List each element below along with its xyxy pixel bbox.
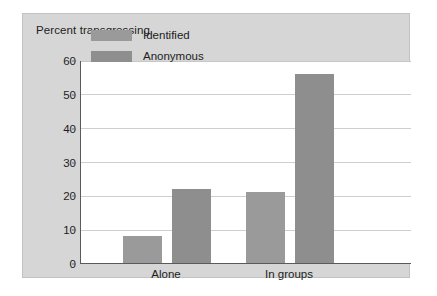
y-axis-tick-label-50: 50 [36,89,76,101]
y-axis-tick-label-10: 10 [36,224,76,236]
legend-label-identified: Identified [143,30,190,42]
y-axis-tick-label-40: 40 [36,123,76,135]
bar-alone-anonymous [172,189,211,263]
y-axis-tick-mark-20 [72,196,76,197]
bar-in-groups-anonymous [295,74,334,263]
x-axis-category-label-alone: Alone [151,268,180,280]
y-axis-tick-mark-60 [72,61,76,62]
y-axis-tick-label-20: 20 [36,190,76,202]
y-axis-tick-label-30: 30 [36,157,76,169]
bar-alone-identified [123,236,162,263]
bar-in-groups-identified [246,192,285,263]
y-axis: 0102030405060 [31,61,76,264]
gridline-30 [81,162,411,163]
gridline-40 [81,128,411,129]
legend-item-identified: Identified [91,26,204,45]
y-axis-tick-label-60: 60 [36,55,76,67]
chart-legend: IdentifiedAnonymous [91,26,204,68]
y-axis-tick-mark-50 [72,94,76,95]
gridline-50 [81,94,411,95]
legend-swatch-identified [91,30,132,41]
x-axis-category-label-in-groups: In groups [265,268,313,280]
y-axis-tick-mark-40 [72,128,76,129]
chart-figure-panel: Percent transgressing 0102030405060 Iden… [22,13,410,278]
y-axis-tick-mark-0 [72,264,76,265]
y-axis-tick-label-0: 0 [36,258,76,270]
legend-item-anonymous: Anonymous [91,47,204,66]
legend-label-anonymous: Anonymous [143,51,204,63]
y-axis-tick-mark-30 [72,162,76,163]
legend-swatch-anonymous [91,51,132,62]
plot-inner [81,61,411,263]
y-axis-tick-mark-10 [72,230,76,231]
plot-area [80,61,411,264]
